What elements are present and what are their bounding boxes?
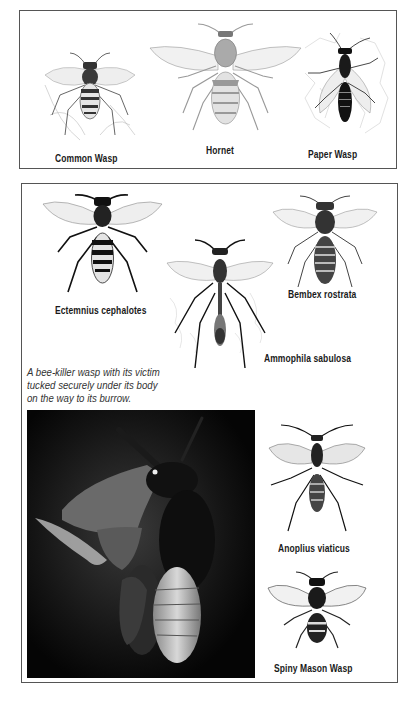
ectemnius-cephalotes-label: Ectemnius cephalotes xyxy=(55,305,146,316)
common-wasp-label: Common Wasp xyxy=(55,153,117,164)
hornet-label: Hornet xyxy=(206,145,234,156)
bee-killer-wasp-photo xyxy=(27,410,255,678)
common-wasp-illustration xyxy=(40,45,140,145)
paper-wasp-illustration xyxy=(300,28,390,140)
anoplius-viaticus-label: Anoplius viaticus xyxy=(278,543,350,554)
caption-line-1: A bee-killer wasp with its victim xyxy=(27,366,160,379)
bembex-rostrata-label: Bembex rostrata xyxy=(288,289,356,300)
ammophila-sabulosa-label: Ammophila sabulosa xyxy=(264,353,351,364)
photo-caption: A bee-killer wasp with its victim tucked… xyxy=(27,366,160,405)
caption-line-2: tucked securely under its body xyxy=(27,379,160,392)
hornet-illustration xyxy=(148,18,303,136)
paper-wasp-label: Paper Wasp xyxy=(308,149,357,160)
spiny-mason-wasp-label: Spiny Mason Wasp xyxy=(274,663,353,674)
spiny-mason-wasp-illustration xyxy=(266,570,368,652)
ectemnius-cephalotes-illustration xyxy=(40,192,165,300)
anoplius-viaticus-illustration xyxy=(266,423,368,533)
ammophila-sabulosa-illustration xyxy=(165,238,275,388)
caption-line-3: on the way to its burrow. xyxy=(27,392,160,405)
bembex-rostrata-illustration xyxy=(270,192,380,300)
